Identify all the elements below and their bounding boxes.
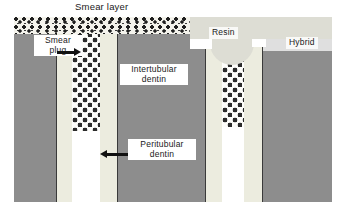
peritubular-dentin bbox=[100, 17, 117, 202]
smear-layer-label: Smear layer bbox=[72, 1, 131, 13]
diagram-canvas: Smear plug Intertubular dentin Peritubul… bbox=[14, 17, 332, 202]
resin-label: Resin bbox=[209, 27, 238, 39]
dentin-smear-layer-figure: Smear layer bbox=[0, 0, 345, 219]
peritubular-dentin-label: Peritubular dentin bbox=[128, 139, 196, 160]
hybrid-label: Hybrid bbox=[286, 37, 318, 49]
smear-layer-band bbox=[14, 17, 190, 34]
intertubular-dentin-label: Intertubular dentin bbox=[120, 64, 188, 85]
resin-undercut bbox=[190, 39, 212, 49]
